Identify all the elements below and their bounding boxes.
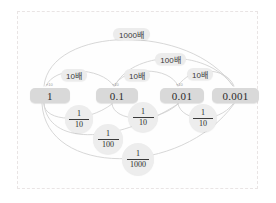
fraction-denominator: 10 bbox=[199, 119, 207, 128]
label-times-100: 100배 bbox=[155, 53, 186, 65]
fraction-denominator: 1000 bbox=[130, 160, 146, 169]
bubble-one-tenth-c: 1 10 bbox=[189, 104, 217, 132]
tick-mark-c: ×10 bbox=[176, 82, 183, 87]
fraction-denominator: 100 bbox=[102, 140, 114, 149]
fraction-numerator: 1 bbox=[201, 109, 205, 118]
node-hundredth[interactable]: 0.01 bbox=[160, 88, 204, 103]
fraction-numerator: 1 bbox=[77, 110, 81, 119]
fraction-numerator: 1 bbox=[106, 130, 110, 139]
fraction-numerator: 1 bbox=[141, 108, 145, 117]
label-times-1000: 1000배 bbox=[113, 28, 150, 40]
bubble-one-hundredth: 1 100 bbox=[93, 124, 123, 154]
label-times-10-b: 10배 bbox=[124, 69, 150, 81]
fraction-denominator: 10 bbox=[139, 118, 147, 127]
fraction-numerator: 1 bbox=[136, 150, 140, 159]
diagram-canvas: 1 0.1 0.01 0.001 10배 10배 10배 100배 1000배 … bbox=[0, 0, 276, 203]
bubble-one-tenth-a: 1 10 bbox=[65, 105, 93, 133]
node-thousandth[interactable]: 0.001 bbox=[212, 88, 259, 103]
label-times-10-c: 10배 bbox=[187, 68, 213, 80]
tick-mark-a: ×10 bbox=[46, 82, 53, 87]
bubble-one-tenth-b: 1 10 bbox=[128, 102, 158, 132]
bubble-one-thousandth: 1 1000 bbox=[122, 143, 154, 175]
fraction-denominator: 10 bbox=[75, 120, 83, 129]
tick-mark-b: ×10 bbox=[112, 82, 119, 87]
node-one[interactable]: 1 bbox=[30, 88, 70, 103]
label-times-10-a: 10배 bbox=[61, 69, 87, 81]
node-tenth[interactable]: 0.1 bbox=[96, 88, 138, 103]
